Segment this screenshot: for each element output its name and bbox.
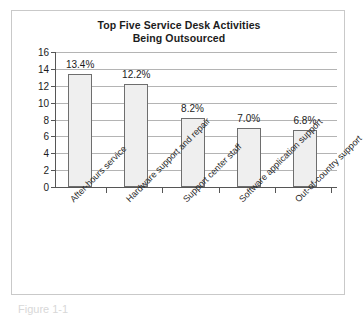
clipped-caption: Figure 1-1 <box>18 303 318 318</box>
y-axis-tick-label: 8 <box>43 114 49 125</box>
bar-value-label: 13.4% <box>66 59 94 70</box>
y-axis-tick <box>51 187 56 188</box>
x-axis-tick <box>219 188 220 193</box>
x-axis-tick <box>162 188 163 193</box>
y-axis-tick-label: 4 <box>43 148 49 159</box>
y-axis-tick <box>51 52 56 53</box>
bar-value-label: 8.2% <box>181 103 204 114</box>
x-axis-tick <box>275 188 276 193</box>
y-axis-tick <box>51 170 56 171</box>
y-axis-tick-label: 0 <box>43 182 49 193</box>
gridline <box>56 86 337 87</box>
y-axis-tick <box>51 69 56 70</box>
y-axis-tick-label: 6 <box>43 131 49 142</box>
y-axis-tick-label: 12 <box>38 80 49 91</box>
bar <box>68 74 92 187</box>
chart-title-line-2: Being Outsourced <box>12 32 346 45</box>
y-axis-tick <box>51 103 56 104</box>
bar-value-label: 12.2% <box>122 69 150 80</box>
y-axis-tick <box>51 153 56 154</box>
y-axis-tick <box>51 120 56 121</box>
y-axis-tick-label: 2 <box>43 165 49 176</box>
gridline <box>56 52 337 53</box>
bar-value-label: 7.0% <box>237 113 260 124</box>
y-axis-tick-label: 10 <box>38 97 49 108</box>
x-axis-tick <box>331 188 332 193</box>
y-axis-tick <box>51 86 56 87</box>
x-axis-tick <box>106 188 107 193</box>
chart-frame: Top Five Service Desk Activities Being O… <box>11 10 345 295</box>
y-axis-tick-label: 16 <box>38 47 49 58</box>
gridline <box>56 69 337 70</box>
y-axis-tick-label: 14 <box>38 63 49 74</box>
bar <box>124 84 148 187</box>
chart-title: Top Five Service Desk Activities Being O… <box>12 19 346 44</box>
chart-title-line-1: Top Five Service Desk Activities <box>97 19 260 31</box>
y-axis-tick <box>51 136 56 137</box>
